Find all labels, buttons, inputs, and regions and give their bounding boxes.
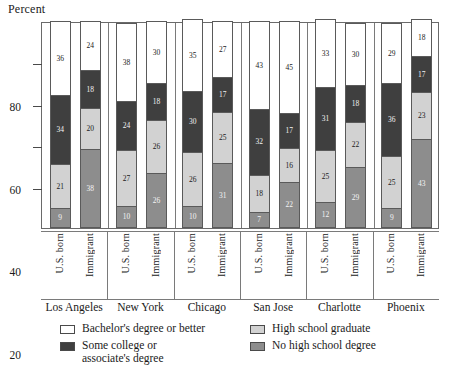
stacked-bar[interactable]: 30182229	[345, 23, 366, 228]
bar-segment-nohs[interactable]: 22	[280, 182, 299, 227]
legend-label-some: Some college orassociate's degree	[82, 339, 164, 365]
x-axis-nativity-text: U.S. born	[186, 233, 197, 273]
bar-segment-bachelor[interactable]: 27	[213, 22, 232, 77]
y-axis-title: Percent	[8, 2, 45, 17]
bar-segment-nohs[interactable]: 12	[316, 202, 335, 227]
bar-segment-nohs[interactable]: 9	[382, 208, 401, 227]
x-axis-nativity-label: Immigrant	[79, 233, 100, 295]
bar-segment-some[interactable]: 36	[382, 83, 401, 157]
bar-segment-nohs[interactable]: 10	[117, 206, 136, 227]
bar-segment-hs[interactable]: 20	[81, 108, 100, 149]
x-axis-nativity-text: U.S. born	[120, 233, 131, 273]
x-axis-city-label: New York	[107, 301, 173, 313]
y-axis-tick: 60	[33, 106, 42, 107]
legend-swatch-some	[60, 342, 75, 351]
bar-segment-some[interactable]: 32	[250, 109, 269, 175]
bar-segment-nohs[interactable]: 38	[81, 149, 100, 227]
bar-segment-bachelor[interactable]: 38	[117, 24, 136, 101]
stacked-bar[interactable]: 30182626	[146, 21, 167, 228]
bar-segment-hs[interactable]: 26	[147, 120, 166, 174]
bar-segment-hs[interactable]: 26	[183, 152, 202, 206]
bar-segment-bachelor[interactable]: 30	[147, 22, 166, 83]
bar-segment-nohs[interactable]: 43	[412, 139, 431, 227]
x-axis-nativity-text: U.S. born	[253, 233, 264, 273]
stacked-bar[interactable]: 27172531	[212, 21, 233, 228]
bar-segment-hs[interactable]: 23	[412, 92, 431, 139]
legend-item-nohs[interactable]: No high school degree	[250, 339, 440, 365]
legend-label-bachelor: Bachelor's degree or better	[82, 322, 205, 335]
bar-segment-bachelor[interactable]: 33	[316, 20, 335, 87]
bar-segment-bachelor[interactable]: 30	[346, 24, 365, 85]
stacked-bar[interactable]: 35302610	[182, 19, 203, 228]
bar-segment-hs[interactable]: 25	[213, 112, 232, 164]
stacked-bar[interactable]: 24182038	[80, 21, 101, 228]
stacked-bar[interactable]: 18172343	[411, 19, 432, 228]
bar-segment-nohs[interactable]: 31	[213, 163, 232, 227]
legend-row: Bachelor's degree or betterHigh school g…	[60, 322, 440, 335]
x-axis-separator-area	[41, 231, 439, 299]
bar-segment-some[interactable]: 30	[183, 91, 202, 153]
y-axis-tick-label: 20	[10, 349, 22, 361]
bar-segment-bachelor[interactable]: 24	[81, 22, 100, 70]
x-axis-nativity-label: U.S. born	[248, 233, 269, 295]
y-axis-tick-label: 80	[10, 101, 22, 113]
bar-segment-nohs[interactable]: 10	[183, 206, 202, 227]
x-axis-nativity-text: Immigrant	[283, 233, 294, 277]
stacked-bar[interactable]: 2936259	[381, 23, 402, 228]
bar-segment-nohs[interactable]: 7	[250, 212, 269, 227]
bar-segment-hs[interactable]: 25	[316, 150, 335, 202]
stacked-bar[interactable]: 45171622	[279, 21, 300, 228]
x-axis-nativity-text: U.S. born	[54, 233, 65, 273]
bar-segment-bachelor[interactable]: 43	[250, 22, 269, 109]
bar-segment-hs[interactable]: 25	[382, 156, 401, 207]
chart-container: Percent 20406080363421924182038382427103…	[0, 0, 454, 378]
bar-segment-hs[interactable]: 16	[280, 148, 299, 181]
bar-segment-some[interactable]: 18	[346, 85, 365, 122]
stacked-bar[interactable]: 3634219	[50, 21, 71, 228]
group-divider	[374, 23, 375, 228]
bar-segment-hs[interactable]: 22	[346, 122, 365, 167]
x-axis-city-label: Los Angeles	[41, 301, 107, 313]
bar-segment-nohs[interactable]: 29	[346, 167, 365, 227]
chart-legend: Bachelor's degree or betterHigh school g…	[60, 322, 440, 369]
bar-segment-bachelor[interactable]: 45	[280, 22, 299, 113]
legend-item-bachelor[interactable]: Bachelor's degree or better	[60, 322, 250, 335]
x-axis-nativity-text: Immigrant	[415, 233, 426, 277]
plot-area: 2040608036342192418203838242710301826263…	[41, 22, 439, 229]
stacked-bar[interactable]: 33312512	[315, 19, 336, 228]
y-axis-tick-label: 40	[10, 266, 22, 278]
bar-segment-bachelor[interactable]: 35	[183, 20, 202, 91]
bar-segment-hs[interactable]: 27	[117, 150, 136, 206]
bar-segment-bachelor[interactable]: 18	[412, 20, 431, 56]
x-axis-nativity-label: Immigrant	[344, 233, 365, 295]
group-divider	[108, 23, 109, 228]
bar-segment-some[interactable]: 18	[147, 83, 166, 120]
y-axis-tick: 40	[33, 147, 42, 148]
x-axis-nativity-text: Immigrant	[84, 233, 95, 277]
bar-segment-some[interactable]: 17	[280, 113, 299, 148]
bar-segment-some[interactable]: 17	[213, 77, 232, 112]
x-axis-nativity-text: Immigrant	[216, 233, 227, 277]
x-axis-city-label: Charlotte	[306, 301, 372, 313]
bar-segment-some[interactable]: 18	[81, 70, 100, 107]
legend-item-some[interactable]: Some college orassociate's degree	[60, 339, 250, 365]
legend-swatch-bachelor	[60, 325, 75, 334]
legend-swatch-hs	[250, 325, 265, 334]
bar-segment-nohs[interactable]: 9	[51, 208, 70, 227]
bar-segment-hs[interactable]: 21	[51, 164, 70, 207]
bar-segment-some[interactable]: 34	[51, 95, 70, 165]
legend-label-hs: High school graduate	[272, 322, 370, 335]
bar-segment-bachelor[interactable]: 36	[51, 22, 70, 95]
bar-segment-nohs[interactable]: 26	[147, 173, 166, 227]
legend-item-hs[interactable]: High school graduate	[250, 322, 440, 335]
bar-segment-some[interactable]: 17	[412, 56, 431, 91]
x-axis-nativity-label: Immigrant	[410, 233, 431, 295]
x-axis-nativity-label: U.S. born	[49, 233, 70, 295]
stacked-bar[interactable]: 38242710	[116, 23, 137, 228]
stacked-bar[interactable]: 4332187	[249, 21, 270, 228]
bar-segment-hs[interactable]: 18	[250, 175, 269, 212]
bar-segment-some[interactable]: 24	[117, 101, 136, 150]
x-axis-nativity-label: U.S. born	[181, 233, 202, 295]
bar-segment-some[interactable]: 31	[316, 87, 335, 151]
bar-segment-bachelor[interactable]: 29	[382, 24, 401, 83]
